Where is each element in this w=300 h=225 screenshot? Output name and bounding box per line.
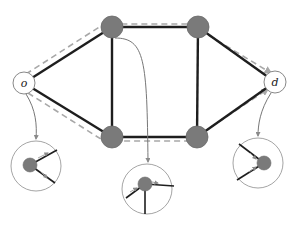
inset-center-node	[257, 156, 271, 170]
network-edges	[24, 27, 275, 137]
callout-arrows	[26, 38, 271, 162]
network-diagram: od	[0, 0, 300, 225]
node-label-d: d	[271, 76, 278, 89]
internal-node-circle	[101, 126, 123, 148]
node-c	[101, 126, 123, 148]
node-label-o: o	[21, 77, 28, 90]
edge-e-d	[197, 82, 275, 137]
internal-node-circle	[187, 16, 209, 38]
edge-b-d	[198, 27, 275, 82]
edge-o-c	[24, 83, 112, 137]
internal-node-circle	[186, 126, 208, 148]
inset-center-node	[138, 177, 152, 191]
node-b	[187, 16, 209, 38]
node-d: d	[264, 71, 286, 93]
edge-b-e	[197, 27, 198, 137]
callout-arrow-d-to-inset	[258, 93, 271, 136]
zoom-insets	[11, 138, 283, 214]
dashed-flow-paths	[26, 24, 271, 141]
callout-arrow-o-to-inset	[26, 94, 36, 139]
node-e	[186, 126, 208, 148]
network-nodes: od	[13, 16, 286, 148]
inset-center-node	[23, 158, 37, 172]
node-a	[101, 16, 123, 38]
junction-inset	[122, 164, 174, 214]
dashed-path-upper-route	[26, 24, 271, 74]
destination-inset	[233, 138, 283, 188]
origin-inset	[11, 141, 61, 191]
internal-node-circle	[101, 16, 123, 38]
edge-o-a	[24, 27, 112, 83]
node-o: o	[13, 72, 35, 94]
